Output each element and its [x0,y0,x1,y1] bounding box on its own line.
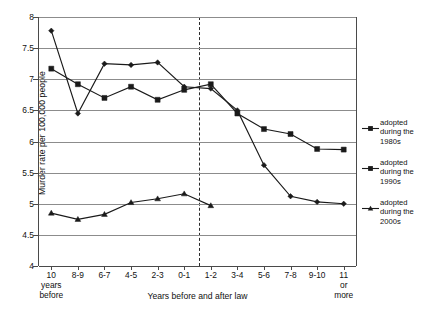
legend-entry-2: adoptedduring the1990s [362,158,424,189]
legend-label-line: adopted [380,118,424,127]
x-tick-mark [264,266,265,270]
legend-entry-1: adoptedduring the1980s [362,118,424,149]
x-tick-mark [291,266,292,270]
x-tick-mark [78,266,79,270]
x-tick-mark [344,266,345,270]
x-tick-mark [211,266,212,270]
x-tick-mark [158,266,159,270]
y-tick-label: 6.5 [2,105,34,115]
legend: adoptedduring the1980sadoptedduring the1… [362,118,424,238]
gridline-4.5 [39,235,356,236]
x-tick-mark [104,266,105,270]
legend-label: adoptedduring the1990s [380,158,424,186]
legend-label: adoptedduring the1980s [380,118,424,146]
gridline-6.5 [39,110,356,111]
legend-entry-3: adoptedduring the2000s [362,198,424,229]
legend-label-line: during the [380,167,424,176]
legend-label-line: 1990s [380,177,424,186]
x-tick-mark [237,266,238,270]
legend-label-line: during the [380,207,424,216]
y-tick-label: 5 [2,199,34,209]
gridline-8 [39,17,356,18]
y-tick-label: 4.5 [2,230,34,240]
legend-label-line: adopted [380,198,424,207]
y-tick-label: 7.5 [2,43,34,53]
legend-label-line: adopted [380,158,424,167]
x-tick-mark [184,266,185,270]
legend-label-line: 2000s [380,217,424,226]
y-tick-label: 8 [2,12,34,22]
y-axis-tick-labels: 87.576.565.554.54 [0,17,34,266]
legend-label-line: during the [380,127,424,136]
y-tick-label: 5.5 [2,168,34,178]
line-chart: Murder rate per 100,000 people 87.576.56… [0,0,425,314]
x-tick-label-line: years [28,280,74,290]
x-tick-label-line: or [321,280,367,290]
gridline-7 [39,79,356,80]
gridline-7.5 [39,48,356,49]
legend-label-line: 1980s [380,137,424,146]
gridline-6 [39,142,356,143]
x-tick-mark [131,266,132,270]
legend-label: adoptedduring the2000s [380,198,424,226]
legend-marker-triangle-icon [362,199,379,208]
y-tick-label: 7 [2,74,34,84]
legend-marker-square-icon [362,159,379,168]
x-tick-mark [51,266,52,270]
x-axis-title: Years before and after law [38,291,357,301]
gridline-5 [39,204,356,205]
plot-area [38,17,357,266]
legend-marker-square-icon [362,119,379,128]
x-tick-mark [317,266,318,270]
y-tick-label: 6 [2,137,34,147]
gridline-5.5 [39,173,356,174]
x-axis-tick-labels: 10yearsbefore8-96-74-52-30-11-23-45-67-8… [38,266,357,312]
x-tick-label-line: 11 [321,270,367,280]
